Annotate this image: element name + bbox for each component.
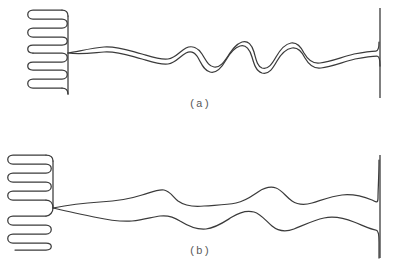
serpentine-coil-b — [8, 155, 53, 250]
serpentine-coil-a — [28, 10, 68, 94]
figure-drawing — [0, 0, 407, 279]
panel-a-group — [28, 8, 380, 98]
coil-a-folded-chain-lower — [28, 53, 68, 88]
strand-b-lower — [53, 208, 379, 258]
panel-label-b: (b) — [189, 245, 210, 257]
coil-b-folded-chain-lower — [8, 216, 52, 250]
filament-b — [53, 160, 379, 258]
coil-b-junction-link — [46, 200, 53, 216]
coil-b-top-tail — [46, 155, 53, 161]
filament-a — [68, 42, 380, 74]
coil-a-top-tail — [62, 10, 68, 16]
panel-label-a: (a) — [189, 98, 210, 110]
strand-b-upper — [53, 160, 379, 208]
coil-a-folded-chain — [28, 10, 68, 53]
coil-a-bottom-tail — [62, 88, 68, 94]
coil-b-folded-chain-upper — [8, 155, 52, 200]
figure-container: (a) (b) — [0, 0, 407, 279]
panel-b-group — [8, 155, 380, 258]
